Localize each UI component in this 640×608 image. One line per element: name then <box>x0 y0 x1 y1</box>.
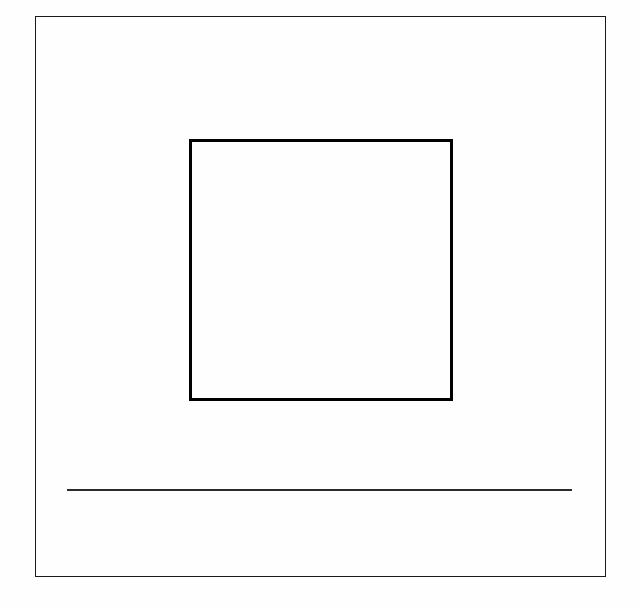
inner-square-interior <box>192 142 450 398</box>
lower-blank-region <box>72 509 640 593</box>
figure-page <box>0 0 640 608</box>
upper-blank-region <box>72 34 640 155</box>
horizontal-rule-line <box>67 489 572 491</box>
right-blank-region <box>490 156 640 418</box>
inner-square-outline <box>189 139 453 401</box>
middle-blank-region <box>72 419 640 505</box>
